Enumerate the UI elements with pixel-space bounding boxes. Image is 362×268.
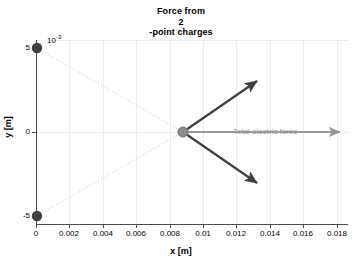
force-vector-from-upper-charge: [183, 132, 257, 183]
field-point-marker: [178, 127, 188, 137]
connector-line-lower-charge: [37, 132, 183, 216]
point-charge-upper-marker: [32, 43, 42, 53]
vector-layer: [0, 0, 362, 268]
point-charge-lower-marker: [32, 211, 42, 221]
connector-line-upper-charge: [37, 48, 183, 132]
force-vector-from-lower-charge: [183, 81, 257, 132]
force-from-point-charges-figure: Force from 2 -point charges 0 0.002 0.00…: [0, 0, 362, 268]
